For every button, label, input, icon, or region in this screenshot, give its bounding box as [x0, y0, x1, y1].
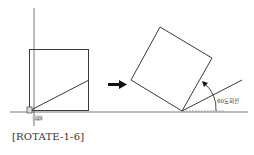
figure-caption: [ROTATE-1-6] [12, 131, 84, 142]
original-square [30, 50, 89, 111]
base-point-marker [27, 107, 32, 113]
base-point-label: 기준점 [34, 117, 43, 121]
rotated-square [131, 27, 212, 111]
right-arrow-icon [108, 80, 127, 89]
rotation-label: 60도회전 [217, 97, 239, 105]
before-rotation [10, 8, 127, 126]
original-diagonal [31, 80, 89, 110]
